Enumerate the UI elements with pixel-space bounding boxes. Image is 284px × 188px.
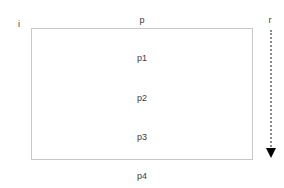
arrow-shaft [270,30,272,150]
label-below-box-p4: p4 [137,172,147,181]
label-top-right: r [269,16,272,25]
downward-dotted-arrow [266,30,275,160]
diagram-canvas: i p r p1 p2 p3 p4 [0,0,284,188]
label-interior-p3: p3 [137,133,147,142]
label-interior-p2: p2 [137,94,147,103]
label-interior-p1: p1 [137,54,147,63]
arrow-head-icon [266,148,276,158]
label-top-center: p [139,16,144,25]
label-top-left: i [18,20,20,29]
